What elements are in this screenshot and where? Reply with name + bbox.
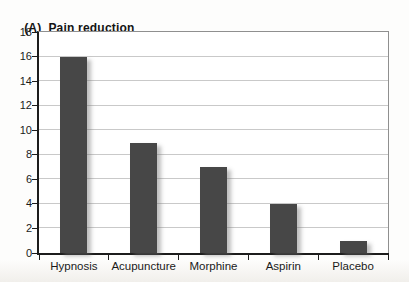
y-axis-tick-mark <box>32 130 37 131</box>
y-axis-tick-label: 4 <box>8 197 32 210</box>
y-axis-tick-mark <box>32 179 37 180</box>
y-axis-tick-label: 10 <box>8 124 32 137</box>
x-axis-category-label: Hypnosis <box>39 260 109 272</box>
y-axis-tick-label: 0 <box>8 247 32 260</box>
gridline <box>39 56 388 57</box>
x-axis-category-label: Placebo <box>318 260 388 272</box>
bar-hypnosis <box>60 57 87 253</box>
y-axis-tick-mark <box>32 56 37 57</box>
gridline <box>39 154 388 155</box>
plot-area <box>37 31 389 255</box>
y-axis-tick-mark <box>32 154 37 155</box>
y-axis-tick-mark <box>32 32 37 33</box>
y-axis-tick-label: 16 <box>8 50 32 63</box>
bar-acupuncture <box>130 143 157 254</box>
y-axis-tick-mark <box>32 203 37 204</box>
x-axis-tick-mark <box>108 253 109 260</box>
x-axis-tick-mark <box>248 253 249 260</box>
x-axis-category-label: Aspirin <box>248 260 318 272</box>
gridline <box>39 129 388 130</box>
y-axis-tick-label: 12 <box>8 99 32 112</box>
gridline <box>39 105 388 106</box>
x-axis-tick-mark <box>318 253 319 260</box>
y-axis-tick-mark <box>32 228 37 229</box>
y-axis-tick-label: 18 <box>8 26 32 39</box>
gridline <box>39 80 388 81</box>
x-axis-category-label: Morphine <box>179 260 249 272</box>
x-axis-tick-mark <box>178 253 179 260</box>
y-axis-tick-mark <box>32 81 37 82</box>
bar-chart-figure: (A)Pain reduction 024681012141618Hypnosi… <box>0 0 409 282</box>
bar-morphine <box>200 167 227 253</box>
y-axis-tick-label: 6 <box>8 173 32 186</box>
y-axis-tick-mark <box>32 105 37 106</box>
x-axis-tick-mark <box>39 253 40 260</box>
y-axis-tick-label: 14 <box>8 75 32 88</box>
y-axis-tick-mark <box>32 253 37 254</box>
x-axis-category-label: Acupuncture <box>109 260 179 272</box>
y-axis-tick-label: 8 <box>8 148 32 161</box>
bar-aspirin <box>270 204 297 253</box>
x-axis-tick-mark <box>388 253 389 260</box>
bar-placebo <box>340 241 367 253</box>
y-axis-tick-label: 2 <box>8 222 32 235</box>
